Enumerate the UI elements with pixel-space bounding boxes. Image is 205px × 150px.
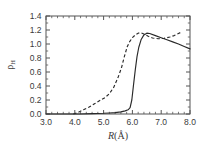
chart-canvas: 3.04.05.06.07.08.0 0.00.20.40.60.81.01.2… xyxy=(0,0,205,150)
y-tick-label: 0.2 xyxy=(30,95,42,105)
y-axis-title-text: ρH xyxy=(4,60,16,70)
y-axis-minor-ticks xyxy=(46,23,190,107)
y-tick-label: 1.0 xyxy=(30,39,42,49)
x-tick-label: 3.0 xyxy=(40,117,52,127)
y-axis-title: ρH xyxy=(4,60,16,70)
y-tick-label: 0.0 xyxy=(30,109,42,119)
x-axis-title-text: R(Å) xyxy=(107,130,128,142)
x-tick-label: 4.0 xyxy=(69,117,81,127)
x-axis-tick-labels: 3.04.05.06.07.08.0 xyxy=(40,117,196,127)
x-tick-label: 7.0 xyxy=(155,117,167,127)
x-tick-label: 5.0 xyxy=(98,117,110,127)
y-tick-label: 0.8 xyxy=(30,53,42,63)
chart-figure: 3.04.05.06.07.08.0 0.00.20.40.60.81.01.2… xyxy=(0,0,205,150)
y-tick-label: 0.6 xyxy=(30,67,42,77)
plot-frame xyxy=(46,16,190,114)
y-tick-label: 1.4 xyxy=(30,11,42,21)
x-axis-title: R(Å) xyxy=(107,130,128,142)
y-axis-major-ticks xyxy=(46,16,190,114)
axis-frame xyxy=(46,16,190,114)
x-tick-label: 6.0 xyxy=(126,117,138,127)
x-tick-label: 8.0 xyxy=(184,117,196,127)
x-axis-major-ticks xyxy=(46,16,190,114)
x-axis-minor-ticks xyxy=(52,16,184,114)
series-solid-curve xyxy=(46,33,190,114)
series-dashed-curve xyxy=(73,32,181,114)
y-tick-label: 1.2 xyxy=(30,25,42,35)
y-axis-tick-labels: 0.00.20.40.60.81.01.21.4 xyxy=(30,11,42,119)
y-tick-label: 0.4 xyxy=(30,81,42,91)
data-series-layer xyxy=(46,32,190,114)
